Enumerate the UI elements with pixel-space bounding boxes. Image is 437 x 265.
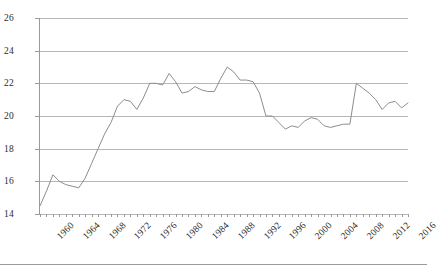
x-tick-mark-2014 [389, 214, 390, 217]
x-tick-label-1996: 1996 [287, 220, 308, 241]
x-tick-mark-1975 [137, 214, 138, 217]
x-tick-mark-1974 [130, 214, 131, 217]
x-tick-mark-1986 [208, 214, 209, 217]
x-tick-mark-2001 [305, 214, 306, 217]
x-tick-mark-1984 [195, 214, 196, 217]
x-tick-mark-1962 [53, 214, 54, 217]
x-tick-mark-2000 [298, 214, 299, 217]
x-tick-label-1976: 1976 [158, 220, 179, 241]
x-tick-label-2000: 2000 [313, 220, 334, 241]
x-tick-mark-1976 [143, 214, 144, 217]
x-tick-mark-2007 [343, 214, 344, 217]
x-tick-mark-1964 [66, 214, 67, 217]
x-tick-mark-1993 [253, 214, 254, 217]
plot-area [40, 18, 408, 214]
y-axis-tick-labels: 14161820222426 [0, 0, 40, 265]
x-tick-mark-1971 [111, 214, 112, 217]
x-tick-mark-2009 [356, 214, 357, 217]
x-tick-mark-2002 [311, 214, 312, 217]
x-tick-mark-1991 [240, 214, 241, 217]
y-tick-label-16: 16 [0, 176, 14, 186]
x-tick-mark-1965 [72, 214, 73, 217]
x-tick-mark-2010 [363, 214, 364, 217]
x-tick-mark-1980 [169, 214, 170, 217]
x-tick-mark-1961 [46, 214, 47, 217]
x-tick-mark-2013 [382, 214, 383, 217]
x-tick-mark-2017 [408, 214, 409, 217]
x-tick-mark-1997 [279, 214, 280, 217]
x-tick-mark-2015 [395, 214, 396, 217]
x-tick-mark-2016 [402, 214, 403, 217]
x-tick-mark-1987 [214, 214, 215, 217]
x-tick-mark-1972 [117, 214, 118, 217]
y-tick-label-26: 26 [0, 13, 14, 23]
x-tick-mark-1973 [124, 214, 125, 217]
x-tick-mark-1969 [98, 214, 99, 217]
x-tick-mark-2006 [337, 214, 338, 217]
x-tick-label-2012: 2012 [391, 220, 412, 241]
x-axis-tick-labels: 1960196419681972197619801984198819921996… [40, 214, 408, 264]
x-tick-mark-1994 [260, 214, 261, 217]
x-tick-label-1984: 1984 [210, 220, 231, 241]
x-tick-mark-1989 [227, 214, 228, 217]
y-tick-label-18: 18 [0, 144, 14, 154]
x-tick-mark-1963 [59, 214, 60, 217]
x-tick-mark-1996 [272, 214, 273, 217]
x-tick-mark-1982 [182, 214, 183, 217]
x-tick-mark-1970 [105, 214, 106, 217]
x-tick-mark-1988 [221, 214, 222, 217]
x-tick-mark-2004 [324, 214, 325, 217]
x-tick-label-1960: 1960 [55, 220, 76, 241]
x-tick-mark-1990 [234, 214, 235, 217]
x-tick-mark-1981 [176, 214, 177, 217]
x-tick-mark-1978 [156, 214, 157, 217]
x-tick-label-1992: 1992 [261, 220, 282, 241]
x-tick-mark-1985 [201, 214, 202, 217]
x-tick-label-2004: 2004 [339, 220, 360, 241]
x-tick-mark-1998 [285, 214, 286, 217]
x-tick-mark-2012 [376, 214, 377, 217]
y-tick-label-22: 22 [0, 78, 14, 88]
x-tick-mark-1995 [266, 214, 267, 217]
y-tick-label-20: 20 [0, 111, 14, 121]
x-tick-mark-2005 [331, 214, 332, 217]
x-tick-mark-2011 [369, 214, 370, 217]
series-line-group [40, 18, 408, 214]
x-tick-label-1964: 1964 [81, 220, 102, 241]
y-tick-label-24: 24 [0, 46, 14, 56]
x-tick-mark-2008 [350, 214, 351, 217]
x-tick-mark-1967 [85, 214, 86, 217]
x-tick-mark-1968 [92, 214, 93, 217]
x-tick-mark-1977 [150, 214, 151, 217]
x-tick-label-1972: 1972 [132, 220, 153, 241]
x-tick-mark-1999 [292, 214, 293, 217]
x-tick-mark-1992 [247, 214, 248, 217]
y-tick-label-14: 14 [0, 209, 14, 219]
x-tick-label-2008: 2008 [365, 220, 386, 241]
x-tick-mark-1983 [188, 214, 189, 217]
x-tick-mark-1966 [79, 214, 80, 217]
x-tick-label-2016: 2016 [416, 220, 437, 241]
x-tick-label-1968: 1968 [106, 220, 127, 241]
x-tick-mark-1979 [163, 214, 164, 217]
x-tick-mark-1960 [40, 214, 41, 217]
x-tick-label-1988: 1988 [236, 220, 257, 241]
x-tick-label-1980: 1980 [184, 220, 205, 241]
series-line-1 [40, 67, 408, 206]
x-tick-mark-2003 [318, 214, 319, 217]
